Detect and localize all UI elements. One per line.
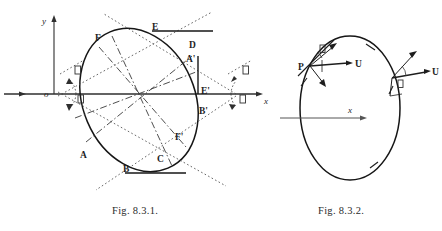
x-axis: [4, 91, 263, 96]
angle-arrow-right-upper: [231, 76, 237, 82]
angle-arrow-left-lower: [66, 104, 73, 111]
figure-8-3-1-canvas: o y x F E D A' E' B' F' C B A: [0, 0, 280, 200]
angle-label-theta-right: [398, 80, 403, 88]
point-label-P: P: [298, 62, 304, 72]
point-label-B: B: [123, 164, 130, 174]
vector-label-U-right: U: [432, 67, 439, 77]
ellipse-main: [59, 10, 220, 190]
x-axis-left-arrow: [19, 91, 26, 96]
angle-label-alpha-upper-left: [75, 66, 81, 74]
figure-8-3-1: o y x F E D A' E' B' F' C B A: [0, 0, 280, 231]
y-axis-label: y: [41, 16, 46, 26]
vector-label-U-left: U: [355, 59, 362, 69]
angle-label-beta-lower-right: [240, 95, 246, 103]
origin-label: o: [44, 89, 49, 99]
x-axis-fig2: [280, 116, 367, 121]
angle-arrow-left-upper: [66, 78, 73, 84]
vector-cluster-left: [310, 43, 353, 87]
point-label-A: A: [80, 150, 87, 160]
point-label-E-prime: E': [201, 86, 210, 96]
tangent-construction-lines: [58, 12, 252, 190]
figure-1-caption: Fig. 8.3.1.: [112, 205, 158, 216]
angle-arrow-right-lower: [229, 104, 236, 110]
point-label-C: C: [157, 154, 164, 164]
x-axis-label-fig2: x: [347, 105, 352, 115]
point-label-F-prime: F': [175, 132, 183, 142]
y-axis: [51, 15, 56, 94]
angle-label-alpha-upper-right: [243, 66, 249, 74]
figure-8-3-2: P U U x: [262, 0, 442, 231]
point-label-D: D: [189, 40, 196, 50]
point-label-F: F: [95, 33, 101, 43]
point-label-E: E: [152, 22, 158, 32]
figure-2-caption: Fig. 8.3.2.: [318, 205, 364, 216]
point-label-A-prime: A': [186, 54, 196, 64]
figure-8-3-2-canvas: P U U x: [262, 0, 442, 200]
point-label-B-prime: B': [199, 106, 208, 116]
vector-cluster-right: [390, 51, 431, 96]
